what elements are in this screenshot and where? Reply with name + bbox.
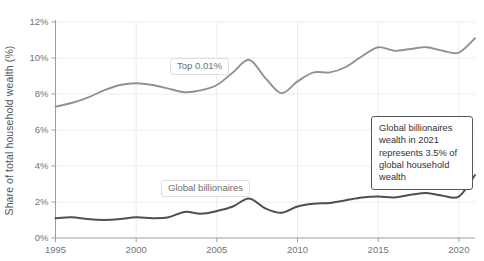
svg-text:0%: 0% [35, 232, 49, 243]
svg-text:2000: 2000 [126, 244, 147, 255]
y-tick-labels: 0%2%4%6%8%10%12% [29, 16, 49, 243]
svg-text:2015: 2015 [368, 244, 389, 255]
svg-text:12%: 12% [29, 16, 49, 27]
svg-text:2020: 2020 [448, 244, 469, 255]
svg-text:2%: 2% [35, 196, 49, 207]
svg-text:4%: 4% [35, 160, 49, 171]
chart-container: Share of total household wealth (%) 0%2%… [0, 0, 484, 261]
svg-text:10%: 10% [29, 52, 49, 63]
x-tick-labels: 199520002005201020152020 [45, 244, 470, 255]
series-line-top-0-01 [56, 38, 476, 106]
svg-text:2005: 2005 [206, 244, 227, 255]
svg-text:8%: 8% [35, 88, 49, 99]
annotation-callout: Global billionaires wealth in 2021 repre… [371, 116, 473, 190]
svg-text:6%: 6% [35, 124, 49, 135]
svg-text:2010: 2010 [287, 244, 308, 255]
series-label-global-billionaires: Global billionaires [161, 180, 250, 197]
series-label-top-001: Top 0.01% [170, 58, 229, 75]
svg-text:1995: 1995 [45, 244, 66, 255]
